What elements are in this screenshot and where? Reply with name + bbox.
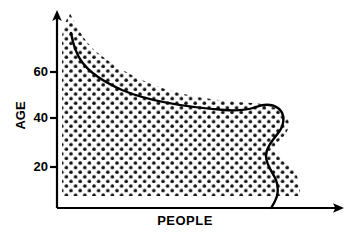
y-tick-label-20: 20 [22,159,48,174]
chart-container: 60 40 20 AGE PEOPLE [0,0,355,241]
chart-canvas [0,0,355,241]
x-axis-label: PEOPLE [125,213,245,228]
y-tick-label-60: 60 [22,64,48,79]
y-axis-label: AGE [13,89,28,143]
